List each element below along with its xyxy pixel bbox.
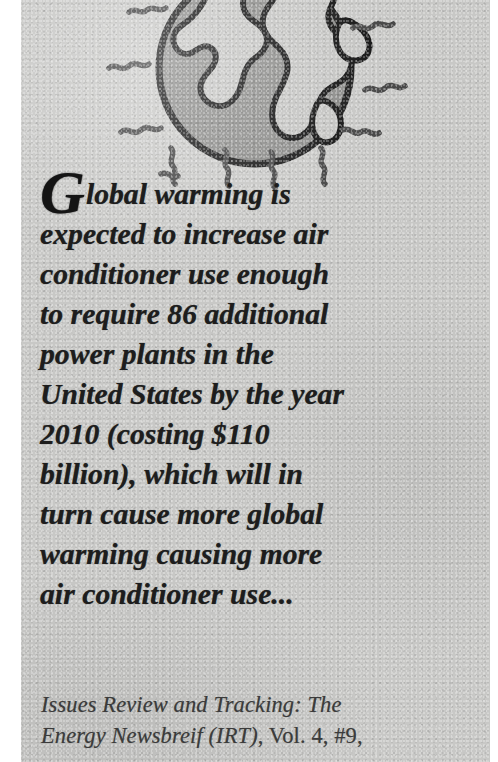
pullquote-line-1-text: lobal warming is: [86, 178, 291, 210]
pullquote-line-8: billion), which will in: [40, 454, 460, 494]
citation-line-1: Issues Review and Tracking: The: [41, 689, 471, 720]
pullquote-text: Global warming is expected to increase a…: [40, 172, 460, 614]
pullquote-line-10: warming causing more: [40, 534, 460, 574]
source-citation: Issues Review and Tracking: The Energy N…: [41, 689, 471, 751]
citation-line-2: Energy Newsbreif (IRT), Vol. 4, #9,: [41, 720, 471, 751]
pullquote-line-3: conditioner use enough: [40, 254, 460, 294]
citation-publication-title: Energy Newsbreif (IRT): [41, 723, 258, 748]
citation-volume-issue: , Vol. 4, #9,: [258, 723, 363, 748]
pullquote-line-7: 2010 (costing $110: [40, 414, 460, 454]
pullquote-line-11: air conditioner use...: [40, 574, 460, 614]
scanned-page: Global warming is expected to increase a…: [0, 0, 498, 762]
pullquote-line-5: power plants in the: [40, 334, 460, 374]
pullquote-line-6: United States by the year: [40, 374, 460, 414]
pullquote-line-1: Global warming is: [40, 172, 460, 214]
pullquote-line-4: to require 86 additional: [40, 294, 460, 334]
globe-icon: [159, 0, 370, 164]
globe-illustration: [21, 0, 490, 200]
pullquote-line-9: turn cause more global: [40, 494, 460, 534]
pullquote-line-2: expected to increase air: [40, 214, 460, 254]
